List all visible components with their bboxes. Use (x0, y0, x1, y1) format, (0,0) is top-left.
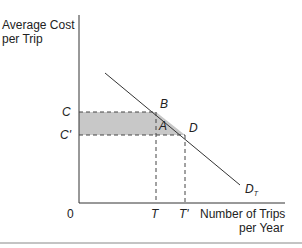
tick-c: C (62, 105, 71, 119)
point-b: B (160, 97, 168, 111)
origin-label: 0 (67, 207, 74, 221)
shaded-area (79, 112, 185, 135)
x-axis-label-line1: Number of Trips (200, 207, 285, 221)
curve-label-main: D (245, 182, 254, 196)
demand-diagram: Average Cost per Trip C C' B A D DT 0 T … (0, 0, 302, 248)
curve-label: DT (245, 182, 258, 201)
point-a: A (159, 119, 167, 133)
y-axis-label-line1: Average Cost (2, 18, 75, 32)
curve-label-subscript: T (254, 190, 258, 197)
y-axis-label-line2: per Trip (2, 32, 43, 46)
tick-c-prime: C' (60, 128, 71, 142)
x-axis-label-line2: per Year (239, 221, 284, 235)
tick-t: T (151, 207, 158, 221)
point-d: D (189, 121, 198, 135)
tick-t-prime: T' (179, 207, 189, 221)
